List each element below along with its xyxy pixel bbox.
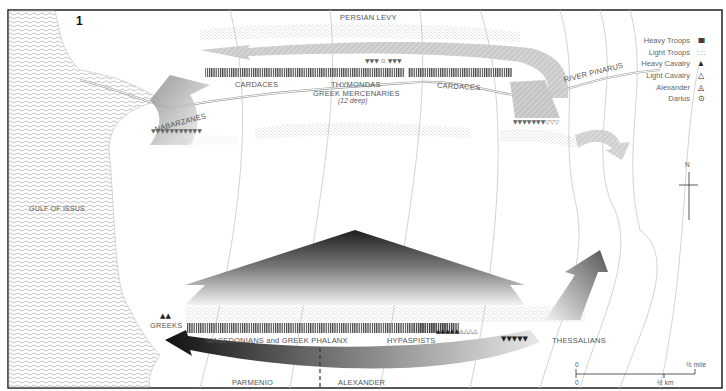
label-cardaces-left: CARDACES xyxy=(235,80,278,89)
persian-right-cavalry: ▼▼▼▼▼▼▼▽▽▽ xyxy=(513,118,560,125)
label-hypaspists: HYPASPISTS xyxy=(387,336,436,345)
legend-label: Light Cavalry xyxy=(646,71,690,80)
legend-label: Alexander xyxy=(656,83,690,92)
label-alexander: ALEXANDER xyxy=(338,378,385,387)
label-greeks: GREEKS xyxy=(150,321,182,330)
legend-light-cavalry: Light Cavalry △ xyxy=(600,70,710,82)
alexander-icon: ◬ xyxy=(694,82,708,93)
scale-half-mile: ½ mile xyxy=(686,361,706,368)
thessalian-cavalry: ▼▼▼▼▼ xyxy=(501,335,529,343)
macedonian-light-troops xyxy=(185,306,585,322)
label-phalanx-depth: 16 deep xyxy=(260,346,289,355)
figure-number: 1 xyxy=(76,14,83,28)
legend-label: Heavy Troops xyxy=(644,36,690,45)
scale-zero-km: 0 xyxy=(575,379,579,386)
legend: Heavy Troops IIIII Light Troops :::: Hea… xyxy=(600,35,710,105)
label-gulf-of-issus: GULF OF ISSUS xyxy=(29,205,85,212)
legend-heavy-troops: Heavy Troops IIIII xyxy=(600,35,710,47)
legend-alexander: Alexander ◬ xyxy=(600,82,710,94)
greeks-cavalry: ▲▲ xyxy=(160,312,171,320)
darius-icon: ⊙ xyxy=(694,93,708,104)
label-thymondas: THYMONDAS xyxy=(331,80,381,89)
label-thessalians: THESSALIANS xyxy=(552,336,606,345)
label-parmenio: PARMENIO xyxy=(232,378,273,387)
label-persian-levy: PERSIAN LEVY xyxy=(340,13,397,22)
legend-label: Light Troops xyxy=(649,48,690,57)
heavy-troops-icon: IIIII xyxy=(694,35,708,46)
legend-label: Heavy Cavalry xyxy=(641,59,690,68)
scale-zero-mile: 0 xyxy=(575,361,579,368)
label-phalanx: MACEDONIANS and GREEK PHALANX xyxy=(206,336,348,345)
label-north: N xyxy=(685,161,690,168)
darius-group-icons: ▼▼▼ ⊙ ▼▼▼ xyxy=(365,57,402,64)
companion-cavalry: ▲▲▲▲▲◬△△△ xyxy=(436,327,478,334)
scale-half-km: ½ km xyxy=(657,379,674,386)
greek-mercenaries-troops xyxy=(302,68,405,77)
light-cavalry-icon: △ xyxy=(694,70,708,81)
heavy-cavalry-icon: ▲ xyxy=(694,58,708,69)
legend-darius: Darius ⊙ xyxy=(600,93,710,105)
label-persian-depth: (12 deep) xyxy=(338,97,368,104)
legend-heavy-cavalry: Heavy Cavalry ▲ xyxy=(600,58,710,70)
legend-label: Darius xyxy=(668,94,690,103)
legend-light-troops: Light Troops :::: xyxy=(600,47,710,59)
cardaces-right-troops xyxy=(408,68,512,77)
cardaces-left-troops xyxy=(205,68,302,77)
light-troops-icon: :::: xyxy=(694,47,708,58)
